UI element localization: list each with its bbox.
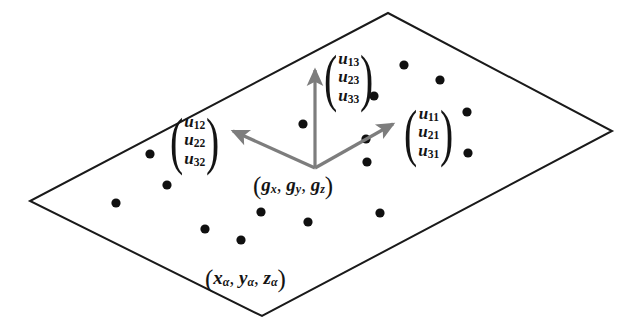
diagram-canvas: (u12u22u32)(u13u23u33)(u11u21u31) (gx, g… — [0, 0, 637, 326]
lattice-atom-dot — [256, 207, 265, 216]
lattice-atom-dot — [462, 107, 471, 116]
lattice-atom-dot — [399, 60, 408, 69]
lattice-atom-dot — [145, 149, 154, 158]
lattice-atom-dot — [303, 217, 312, 226]
lattice-atom-dot — [236, 235, 245, 244]
lattice-atom-dot — [362, 157, 371, 166]
diagram-vector-graphics — [0, 0, 637, 326]
lattice-atom-dot — [298, 119, 307, 128]
lattice-atom-dot — [200, 224, 209, 233]
lattice-atom-dot — [463, 148, 472, 157]
lattice-atom-dot — [369, 91, 378, 100]
lattice-atom-dot — [111, 198, 120, 207]
lattice-atom-dot — [435, 75, 444, 84]
lattice-atom-dot — [375, 208, 384, 217]
lattice-atom-dot — [162, 180, 171, 189]
